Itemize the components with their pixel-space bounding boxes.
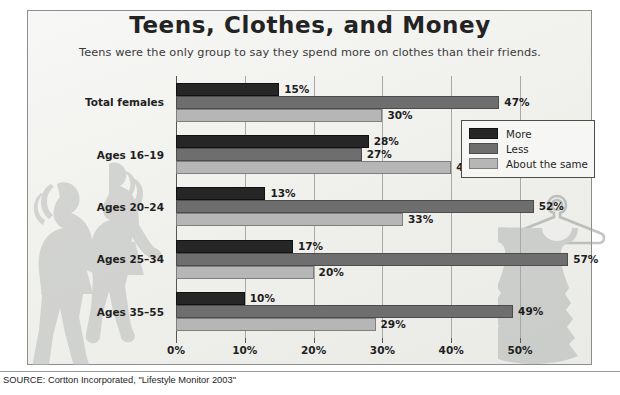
bar-value-label: 52% [539, 199, 564, 213]
bar-same[interactable] [176, 266, 314, 279]
legend-label-less: Less [506, 143, 529, 155]
legend-item-more[interactable]: More [469, 126, 587, 141]
bar-value-label: 49% [518, 304, 543, 318]
legend-swatch-less-icon [469, 143, 498, 154]
bar-more[interactable] [176, 187, 265, 200]
bar-less[interactable] [176, 253, 568, 266]
bar-more[interactable] [176, 83, 279, 96]
legend-swatch-more-icon [469, 128, 498, 139]
tick-50% [520, 338, 521, 343]
bar-more[interactable] [176, 135, 369, 148]
tick-30% [382, 338, 383, 343]
bar-row: 29% [176, 318, 520, 331]
bar-same[interactable] [176, 318, 376, 331]
page-title: Teens, Clothes, and Money [0, 12, 620, 38]
category-label: Total females [85, 96, 164, 108]
bar-value-label: 29% [381, 317, 406, 331]
x-tick-label: 0% [167, 344, 185, 356]
bar-row: 47% [176, 96, 520, 109]
footer-divider [0, 371, 620, 372]
plot-area: Total females15%47%30%Ages 16–1928%27%40… [176, 76, 520, 338]
bar-value-label: 15% [284, 82, 309, 96]
x-tick-label: 40% [439, 344, 464, 356]
bar-value-label: 13% [270, 186, 295, 200]
bar-same[interactable] [176, 213, 403, 226]
bar-row: 33% [176, 213, 520, 226]
bar-value-label: 10% [250, 291, 275, 305]
bar-row: 52% [176, 200, 520, 213]
legend-item-about-the-same[interactable]: About the same [469, 156, 587, 171]
bar-less[interactable] [176, 148, 362, 161]
bar-row: 20% [176, 266, 520, 279]
bar-value-label: 17% [298, 239, 323, 253]
legend: More Less About the same [461, 120, 595, 178]
bar-more[interactable] [176, 292, 245, 305]
legend-label-more: More [506, 128, 532, 140]
category-label: Ages 25–34 [97, 253, 164, 265]
bar-same[interactable] [176, 109, 382, 122]
tick-10% [245, 338, 246, 343]
tick-0% [176, 338, 177, 343]
chart-subtitle: Teens were the only group to say they sp… [0, 46, 620, 59]
bar-group: Ages 25–3417%57%20% [176, 233, 520, 285]
bar-value-label: 33% [408, 212, 433, 226]
category-label: Ages 35–55 [97, 306, 164, 318]
legend-item-less[interactable]: Less [469, 141, 587, 156]
x-tick-label: 10% [232, 344, 257, 356]
x-tick-label: 20% [301, 344, 326, 356]
bar-less[interactable] [176, 96, 499, 109]
bar-same[interactable] [176, 161, 451, 174]
legend-swatch-about-the-same-icon [469, 158, 498, 169]
bar-less[interactable] [176, 200, 534, 213]
bar-more[interactable] [176, 240, 293, 253]
bar-row: 10% [176, 292, 520, 305]
x-tick-label: 30% [370, 344, 395, 356]
tick-20% [314, 338, 315, 343]
bar-value-label: 47% [504, 95, 529, 109]
bar-value-label: 20% [319, 265, 344, 279]
category-label: Ages 16–19 [97, 149, 164, 161]
x-tick-label: 50% [507, 344, 532, 356]
bar-row: 49% [176, 305, 520, 318]
tick-40% [451, 338, 452, 343]
chart-screenshot: Teens, Clothes, and Money Teens were the… [0, 0, 620, 395]
bar-row: 57% [176, 253, 520, 266]
bar-group: Ages 20–2413%52%33% [176, 181, 520, 233]
bar-value-label: 30% [387, 108, 412, 122]
bar-value-label: 28% [374, 134, 399, 148]
source-note: SOURCE: Cortton Incorporated, "Lifestyle… [3, 375, 236, 385]
bar-value-label: 57% [573, 252, 598, 266]
legend-label-about-the-same: About the same [506, 158, 588, 170]
bar-less[interactable] [176, 305, 513, 318]
bar-row: 17% [176, 240, 520, 253]
category-label: Ages 20–24 [97, 201, 164, 213]
bar-row: 15% [176, 83, 520, 96]
bar-value-label: 27% [367, 147, 392, 161]
bar-group: Ages 35–5510%49%29% [176, 286, 520, 338]
bar-row: 13% [176, 187, 520, 200]
